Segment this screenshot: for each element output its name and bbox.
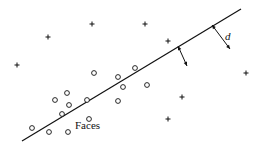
distance-label: d [225, 30, 231, 42]
face-detection-diagram: Faces d [0, 0, 265, 151]
nonface-plus-marker [15, 63, 20, 68]
face-circle-marker [53, 98, 58, 103]
faces-label: Faces [75, 119, 100, 131]
face-circle-marker [30, 126, 35, 131]
nonface-plus-marker [143, 22, 148, 27]
face-circle-marker [145, 83, 150, 88]
face-circle-marker [67, 103, 72, 108]
face-circle-marker [116, 99, 121, 104]
face-circle-marker [47, 130, 52, 135]
nonface-plus-marker [46, 35, 51, 40]
face-circle-marker [133, 66, 138, 71]
face-circle-marker [121, 85, 126, 90]
nonface-plus-marker [166, 39, 171, 44]
face-circle-marker [66, 130, 71, 135]
face-circle-marker [60, 112, 65, 117]
face-circle-marker [92, 71, 97, 76]
nonface-plus-marker [166, 117, 171, 122]
face-circle-marker [85, 98, 90, 103]
face-circle-marker [65, 91, 70, 96]
distance-arrow [178, 46, 187, 66]
face-circle-marker [116, 75, 121, 80]
nonface-plus-marker [244, 71, 249, 76]
nonface-plus-marker [90, 22, 95, 27]
separating-line [22, 9, 241, 141]
nonface-plus-marker [180, 95, 185, 100]
